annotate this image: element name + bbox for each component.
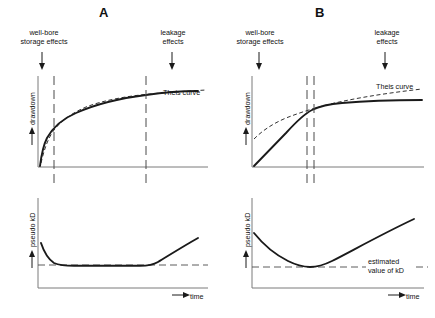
- curve-pseudo-kd-b: [254, 219, 414, 267]
- axis-arrow-time-a: [172, 292, 190, 298]
- arrow-wellbore-storage-a: [39, 52, 45, 70]
- arrow-leakage-b: [382, 52, 388, 70]
- axis-arrow-pseudo-kd-a: [29, 250, 35, 268]
- curve-drawdown-a: [40, 91, 198, 166]
- curve-pseudo-kd-a: [41, 238, 198, 266]
- axis-arrow-drawdown-b: [243, 127, 249, 145]
- arrow-leakage-a: [169, 52, 175, 70]
- axis-arrow-drawdown-a: [29, 127, 35, 145]
- curve-drawdown-b: [254, 100, 422, 166]
- arrow-wellbore-storage-b: [256, 52, 262, 70]
- curve-theis-b: [254, 89, 422, 139]
- axis-arrow-pseudo-kd-b: [243, 250, 249, 268]
- figure-vector-layer: [0, 0, 435, 318]
- figure-root: A B well-bore storage effects leakage ef…: [0, 0, 435, 318]
- axis-arrow-time-b: [388, 292, 406, 298]
- curve-theis-a: [41, 90, 206, 163]
